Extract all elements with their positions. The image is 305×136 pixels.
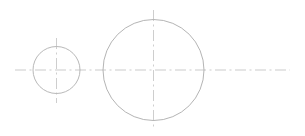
canvas-background	[0, 0, 305, 136]
drawing-canvas	[0, 0, 305, 136]
technical-drawing-svg	[0, 0, 305, 136]
